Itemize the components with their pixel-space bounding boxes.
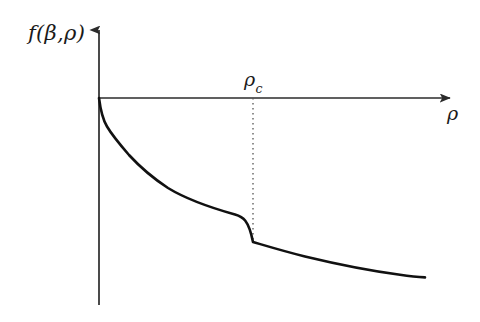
- critical-density-label: ρc: [244, 70, 262, 93]
- free-energy-curve: [99, 98, 425, 277]
- critical-density-subscript: c: [255, 81, 262, 96]
- x-axis-label: ρ: [447, 104, 458, 123]
- plot-canvas: [0, 0, 480, 322]
- y-axis-label: f(β,ρ): [28, 23, 85, 44]
- figure-root: f(β,ρ) ρ ρc: [0, 0, 480, 322]
- critical-density-base: ρ: [244, 68, 255, 90]
